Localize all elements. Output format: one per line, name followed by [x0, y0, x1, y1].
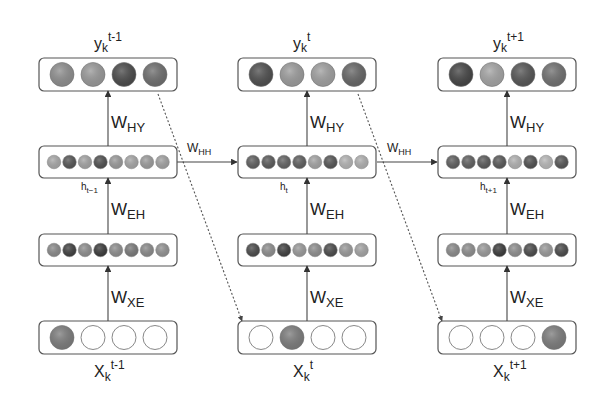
embedding-node-shade: [355, 243, 369, 257]
output-node-shade: [249, 63, 273, 87]
embedding-node-shade: [246, 243, 260, 257]
embedding-node-shade: [277, 243, 291, 257]
embedding-node-shade: [125, 243, 139, 257]
output-node-shade: [449, 63, 473, 87]
output-node-shade: [480, 63, 504, 87]
embedding-node-shade: [339, 243, 353, 257]
hidden-node-shade: [109, 155, 123, 169]
input-node: [249, 326, 273, 350]
output-node-shade: [112, 63, 136, 87]
w-hy-label: WHY: [510, 113, 544, 135]
embedding-node-shade: [462, 243, 476, 257]
time-step-column-3: WHYWEHWXEykt+1ht+1Xkt+1: [438, 30, 576, 384]
embedding-node-shade: [446, 243, 460, 257]
hidden-node-shade: [324, 155, 338, 169]
hidden-state-label: ht+1: [480, 181, 497, 195]
w-xe-label: WXE: [111, 288, 145, 310]
hidden-node-shade: [508, 155, 522, 169]
hidden-node-shade: [339, 155, 353, 169]
w-hh-label-1: WHH: [187, 141, 211, 157]
input-node: [311, 326, 335, 350]
w-hy-label: WHY: [310, 113, 344, 135]
output-node-shade: [50, 63, 74, 87]
output-label: ykt: [293, 30, 311, 55]
embedding-node-shade: [262, 243, 276, 257]
embedding-node-shade: [555, 243, 569, 257]
input-label: Xkt-1: [94, 358, 125, 384]
w-eh-label: WEH: [510, 200, 544, 222]
input-node-shade: [542, 326, 566, 350]
output-node-shade: [511, 63, 535, 87]
input-node-shade: [280, 326, 304, 350]
rnn-diagram: WHH WHH WHYWEHWXEykt-1ht−1Xkt-1WHYWEHWXE…: [0, 0, 610, 402]
hidden-node-shade: [493, 155, 507, 169]
input-node: [112, 326, 136, 350]
w-hy-label: WHY: [111, 113, 145, 135]
dashed-edge-output-to-next-input-1: [158, 94, 242, 321]
input-label: Xkt+1: [493, 358, 527, 384]
embedding-node-shade: [78, 243, 92, 257]
input-node: [511, 326, 535, 350]
hidden-node-shade: [47, 155, 61, 169]
embedding-node-shade: [524, 243, 538, 257]
embedding-node-shade: [293, 243, 307, 257]
hidden-node-shade: [555, 155, 569, 169]
w-xe-label: WXE: [310, 288, 344, 310]
hidden-node-shade: [293, 155, 307, 169]
time-step-column-2: WHYWEHWXEykthtXkt: [238, 30, 376, 384]
w-eh-label: WEH: [111, 200, 145, 222]
hidden-node-shade: [277, 155, 291, 169]
hidden-node-shade: [140, 155, 154, 169]
hidden-node-shade: [308, 155, 322, 169]
hidden-node-shade: [156, 155, 170, 169]
output-node-shade: [342, 63, 366, 87]
hidden-node-shade: [462, 155, 476, 169]
output-node-shade: [542, 63, 566, 87]
hidden-node-shade: [355, 155, 369, 169]
hidden-node-shade: [246, 155, 260, 169]
input-node: [81, 326, 105, 350]
hidden-node-shade: [63, 155, 77, 169]
input-label: Xkt: [293, 358, 314, 384]
embedding-node-shade: [109, 243, 123, 257]
output-node-shade: [280, 63, 304, 87]
embedding-node-shade: [493, 243, 507, 257]
w-hh-label-2: WHH: [387, 141, 411, 157]
embedding-node-shade: [324, 243, 338, 257]
input-node: [480, 326, 504, 350]
output-node-shade: [81, 63, 105, 87]
hidden-state-label: ht−1: [81, 181, 98, 195]
hidden-node-shade: [94, 155, 108, 169]
hidden-node-shade: [125, 155, 139, 169]
hidden-node-shade: [446, 155, 460, 169]
dashed-edge-output-to-next-input-2: [358, 94, 442, 321]
input-node: [449, 326, 473, 350]
embedding-node-shade: [47, 243, 61, 257]
w-eh-label: WEH: [310, 200, 344, 222]
hidden-node-shade: [262, 155, 276, 169]
input-node-shade: [50, 326, 74, 350]
output-node-shade: [143, 63, 167, 87]
input-node: [342, 326, 366, 350]
embedding-node-shade: [156, 243, 170, 257]
output-label: ykt+1: [493, 30, 524, 55]
hidden-state-label: ht: [280, 181, 289, 195]
hidden-node-shade: [78, 155, 92, 169]
embedding-node-shade: [508, 243, 522, 257]
time-step-column-1: WHYWEHWXEykt-1ht−1Xkt-1: [39, 30, 177, 384]
hidden-node-shade: [539, 155, 553, 169]
w-xe-label: WXE: [510, 288, 544, 310]
hidden-node-shade: [524, 155, 538, 169]
hidden-node-shade: [477, 155, 491, 169]
output-label: ykt-1: [94, 30, 122, 55]
output-node-shade: [311, 63, 335, 87]
embedding-node-shade: [477, 243, 491, 257]
embedding-node-shade: [539, 243, 553, 257]
embedding-node-shade: [94, 243, 108, 257]
embedding-node-shade: [308, 243, 322, 257]
input-node: [143, 326, 167, 350]
embedding-node-shade: [63, 243, 77, 257]
embedding-node-shade: [140, 243, 154, 257]
